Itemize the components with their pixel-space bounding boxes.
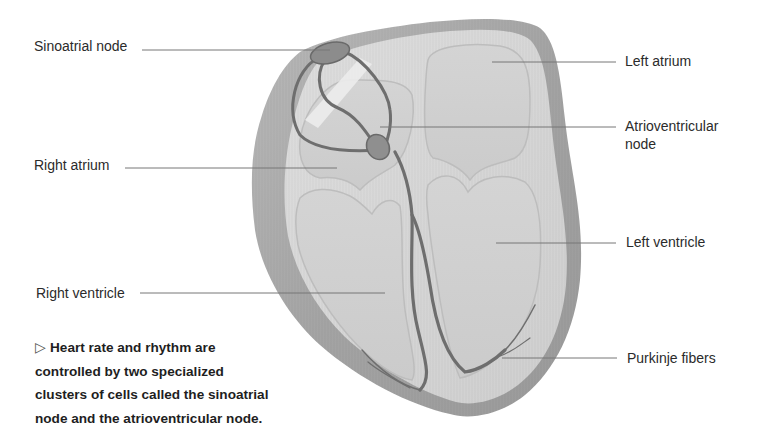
triangle-marker-icon: ▷: [35, 340, 46, 355]
caption-text-1: Heart rate and rhythm are: [50, 340, 215, 355]
label-atrioventricular-node-line1: Atrioventricular: [625, 117, 718, 135]
label-purkinje-fibers: Purkinje fibers: [627, 349, 716, 367]
caption: ▷Heart rate and rhythm are controlled by…: [35, 336, 297, 430]
caption-line-1: ▷Heart rate and rhythm are: [35, 336, 297, 360]
heart-diagram: Sinoatrial node Right atrium Right ventr…: [0, 0, 758, 448]
label-right-ventricle: Right ventricle: [36, 284, 125, 302]
label-right-atrium: Right atrium: [34, 156, 109, 174]
label-left-ventricle: Left ventricle: [626, 233, 705, 251]
label-left-atrium: Left atrium: [625, 52, 691, 70]
label-atrioventricular-node: Atrioventricular node: [625, 117, 718, 153]
label-sinoatrial-node: Sinoatrial node: [34, 37, 127, 55]
caption-line-2: controlled by two specialized: [35, 360, 297, 384]
caption-line-3: clusters of cells called the sinoatrial: [35, 383, 297, 407]
label-atrioventricular-node-line2: node: [625, 135, 718, 153]
caption-line-4: node and the atrioventricular node.: [35, 407, 297, 431]
